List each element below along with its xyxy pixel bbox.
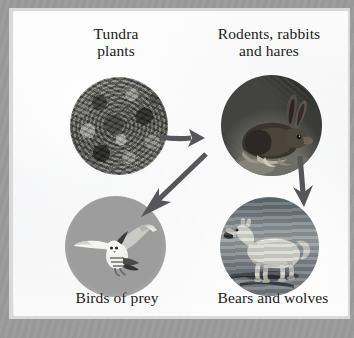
label-tundra-plants: Tundra plants <box>57 25 175 60</box>
label-bears-and-wolves: Bears and wolves <box>189 289 348 306</box>
node-bears-and-wolves <box>220 197 319 296</box>
label-rodents-rabbits-hares: Rodents, rabbits and hares <box>189 25 348 60</box>
node-tundra-plants <box>70 77 168 175</box>
node-rodents-rabbits-hares <box>221 75 322 176</box>
snowy-owl-illustration <box>65 196 166 297</box>
diagram-canvas: Tundra plants Rodents, rabbits and hares… <box>13 11 348 316</box>
arctic-wolf-illustration <box>220 197 319 296</box>
hare-illustration <box>221 75 322 176</box>
node-birds-of-prey <box>65 196 166 297</box>
food-chain-diagram-image: Tundra plants Rodents, rabbits and hares… <box>0 0 354 338</box>
label-birds-of-prey: Birds of prey <box>37 289 197 306</box>
